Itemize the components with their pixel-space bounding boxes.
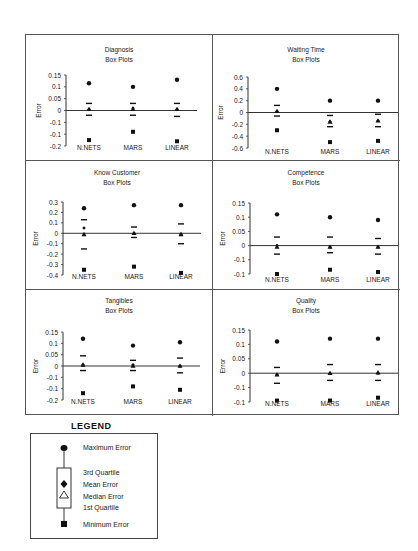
q1-marker: [274, 383, 280, 384]
y-tick-label: 0.4: [234, 85, 243, 92]
y-tick-label: 0: [54, 230, 58, 237]
y-tick-label: -0.1: [47, 374, 59, 381]
panel-title: Know Customer: [94, 169, 141, 176]
panel-tangibles: TangiblesBox Plots0.150.10.050-0.1-0.1-0…: [32, 297, 200, 405]
panel-title: Diagnosis: [105, 46, 134, 54]
x-category-label: LINEAR: [165, 144, 189, 151]
y-tick-label: 0.1: [49, 219, 58, 226]
box-plot-panels: DiagnosisBox Plots0.150.10.050-0.1-0.1-0…: [0, 0, 418, 420]
panel-subtitle: Box Plots: [105, 307, 133, 314]
y-tick-label: -0.1: [47, 240, 59, 247]
q3-marker: [375, 364, 381, 365]
y-axis-label: Error: [217, 104, 224, 119]
y-tick-label: 0.2: [234, 97, 243, 104]
minimum-error-icon: [132, 265, 136, 269]
q1-marker: [130, 370, 136, 371]
x-category-label: MARS: [124, 144, 143, 151]
y-tick-label: -0.3: [47, 261, 59, 268]
y-tick-label: 0.05: [48, 95, 61, 102]
q3-marker: [81, 219, 87, 220]
maximum-error-icon: [82, 206, 86, 210]
minimum-error-icon: [179, 271, 183, 275]
y-tick-label: -0.1: [234, 399, 246, 406]
y-tick-label: -0.2: [232, 121, 244, 128]
q1-marker: [375, 126, 381, 127]
panel-title: Quality: [296, 297, 317, 305]
q1-marker: [131, 237, 137, 238]
minimum-error-icon: [328, 268, 332, 272]
y-tick-label: 0.6: [234, 74, 243, 81]
q3-marker: [86, 103, 92, 104]
y-tick-label: 0.15: [232, 327, 245, 334]
q1-marker: [81, 248, 87, 249]
q3-marker: [375, 238, 381, 239]
minimum-error-icon: [328, 140, 332, 144]
y-tick-label: 0.05: [45, 351, 58, 358]
q1-marker: [174, 116, 180, 117]
x-category-label: N.NETS: [77, 144, 102, 151]
q3-marker: [375, 114, 381, 115]
minimum-error-icon: [131, 130, 135, 134]
legend-label-median: Median Error: [83, 493, 123, 500]
maximum-error-icon: [376, 336, 380, 340]
panel-title: Tangibles: [105, 297, 133, 305]
x-category-label: MARS: [125, 273, 144, 280]
y-tick-label: 0.1: [236, 341, 245, 348]
maximum-error-icon: [275, 212, 279, 216]
y-tick-label: 0.3: [49, 199, 58, 206]
y-tick-label: 0.15: [45, 329, 58, 336]
maximum-error-icon: [328, 98, 332, 102]
maximum-error-icon: [178, 340, 182, 344]
minimum-error-icon: [275, 128, 279, 132]
panel-subtitle: Box Plots: [105, 56, 133, 63]
panel-know-customer: Know CustomerBox Plots0.30.20.10-0.1-0.2…: [32, 169, 201, 280]
panel-subtitle: Box Plots: [292, 56, 320, 63]
y-tick-label: 0.05: [232, 355, 245, 362]
y-axis-label: Error: [35, 102, 42, 117]
y-axis-label: Error: [219, 358, 226, 373]
minimum-error-icon: [275, 272, 279, 276]
y-tick-label: -0.4: [47, 272, 59, 279]
panel-competence: CompetenceBox Plots0.150.10.050-0.1-0.1E…: [219, 169, 398, 283]
y-tick-label: -0.1: [47, 385, 59, 392]
y-tick-label: -0.1: [50, 131, 62, 138]
y-tick-label: -0.2: [47, 397, 59, 404]
minimum-error-icon: [275, 399, 279, 403]
minimum-error-icon: [87, 138, 91, 142]
q3-marker: [130, 360, 136, 361]
x-category-label: LINEAR: [366, 400, 390, 407]
minimum-error-icon: [178, 388, 182, 392]
y-tick-label: -0.6: [232, 145, 244, 152]
median-error-icon: [82, 232, 87, 236]
maximum-error-icon: [81, 337, 85, 341]
q3-marker: [177, 357, 183, 358]
y-tick-label: -0.1: [50, 119, 62, 126]
y-tick-label: 0.15: [232, 200, 245, 207]
maximum-error-icon: [61, 445, 68, 451]
maximum-error-icon: [376, 218, 380, 222]
x-category-label: N.NETS: [265, 148, 290, 155]
y-tick-label: 0: [239, 109, 243, 116]
maximum-error-icon: [175, 78, 179, 82]
minimum-error-icon: [175, 139, 179, 143]
panel-quality: QualityBox Plots0.150.10.050-0.1-0.1Erro…: [219, 297, 398, 407]
y-tick-label: -0.1: [234, 256, 246, 263]
legend-label-maximum: Maximum Error: [83, 444, 131, 451]
y-tick-label: -0.2: [47, 251, 59, 258]
minimum-error-icon: [328, 399, 332, 403]
q1-marker: [375, 380, 381, 381]
q1-marker: [327, 126, 333, 127]
y-tick-label: 0: [241, 242, 245, 249]
minimum-error-icon: [81, 391, 85, 395]
q3-marker: [274, 105, 280, 106]
minimum-error-icon: [82, 268, 86, 272]
maximum-error-icon: [328, 336, 332, 340]
legend-title: LEGEND: [71, 421, 112, 431]
x-category-label: LINEAR: [366, 276, 390, 283]
x-category-label: MARS: [321, 276, 340, 283]
q1-marker: [80, 370, 86, 371]
panel-title: Waiting Time: [287, 46, 325, 54]
q1-marker: [327, 252, 333, 253]
panel-subtitle: Box Plots: [292, 307, 320, 314]
mean-error-icon: [376, 371, 380, 375]
